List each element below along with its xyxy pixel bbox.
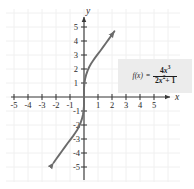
formula-equals-sign: = [146,72,150,79]
denominator-addend: + 1 [165,76,175,85]
x-tick-label: -3 [38,100,45,110]
y-tick-label: -4 [73,148,81,158]
function-formula-label: f(x) = 4x3 2x2+ 1 [118,59,192,93]
x-tick-label: 3 [124,100,128,110]
graph-figure: -5 -4 -3 -2 -1 1 2 3 4 5 5 4 3 2 1 -1 -2… [0,0,194,189]
x-axis-label: x [174,92,180,102]
x-tick-label: 1 [96,100,100,110]
formula-denominator: 2x2+ 1 [153,76,177,85]
formula-function-name: f(x) [133,72,143,79]
y-tick-label: 1 [74,78,78,88]
x-tick-label: -5 [10,100,17,110]
plot-background [0,0,194,189]
y-tick-label: 5 [74,22,78,32]
y-tick-label: -5 [73,162,80,172]
coordinate-plane: -5 -4 -3 -2 -1 1 2 3 4 5 5 4 3 2 1 -1 -2… [0,0,194,189]
x-tick-label: 2 [110,100,114,110]
y-tick-label: -1 [73,106,80,116]
x-tick-label: 5 [152,100,156,110]
numerator-exponent: 3 [168,65,171,71]
y-axis-label: y [85,6,91,16]
formula-expression: f(x) = 4x3 2x2+ 1 [133,67,178,84]
formula-fraction: 4x3 2x2+ 1 [153,67,177,84]
y-tick-label: 3 [74,50,78,60]
y-tick-label: 2 [74,64,78,74]
x-tick-label: -2 [52,100,59,110]
x-tick-label: -4 [24,100,32,110]
